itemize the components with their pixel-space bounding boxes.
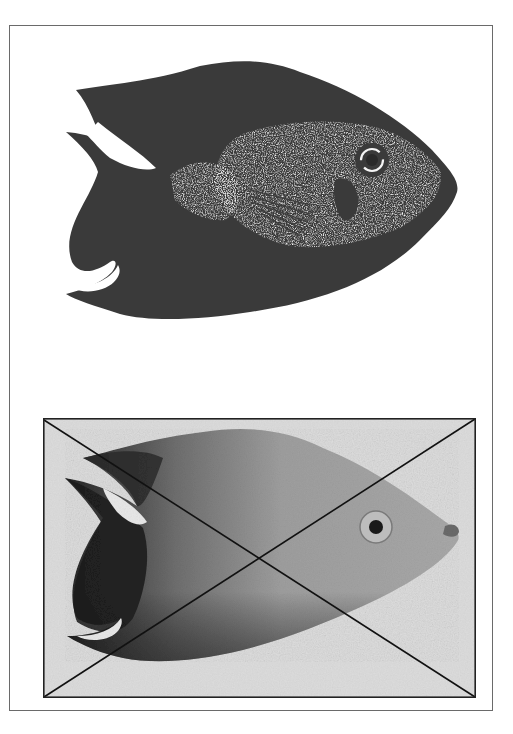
fish-photo-eye-icon	[360, 511, 392, 543]
fish-eye-icon	[355, 143, 389, 177]
fish-photo-figure	[43, 418, 476, 698]
fish-photo-crossed-out	[43, 418, 476, 698]
